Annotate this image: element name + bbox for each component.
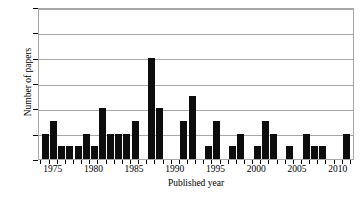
x-tick-label: 2000: [236, 164, 276, 174]
bar: [229, 146, 236, 159]
bar: [343, 134, 350, 159]
bar: [83, 134, 90, 159]
x-axis-title: Published year: [38, 178, 354, 188]
x-tick-label: 1975: [33, 164, 73, 174]
x-tick-label: 1995: [196, 164, 236, 174]
bar: [205, 146, 212, 159]
bar: [132, 121, 139, 159]
plot-area: [38, 8, 354, 160]
bar-chart-figure: Number of papers 024681012 1975198019851…: [0, 0, 363, 199]
bar: [319, 146, 326, 159]
bar: [270, 134, 277, 159]
bar: [180, 121, 187, 159]
bar: [99, 108, 106, 159]
bar: [66, 146, 73, 159]
x-tick-label: 1980: [73, 164, 113, 174]
bar: [262, 121, 269, 159]
bar: [107, 134, 114, 159]
bar: [115, 134, 122, 159]
bar: [237, 134, 244, 159]
bar: [286, 146, 293, 159]
y-axis-title: Number of papers: [23, 17, 33, 147]
bar: [91, 146, 98, 159]
x-tick-label: 2010: [318, 164, 358, 174]
bar: [42, 134, 49, 159]
bar: [58, 146, 65, 159]
bar-series: [39, 9, 353, 159]
bar: [303, 134, 310, 159]
bar: [123, 134, 130, 159]
bar: [148, 58, 155, 159]
bar: [156, 108, 163, 159]
y-tick-mark: [33, 160, 38, 161]
x-tick-label: 1990: [155, 164, 195, 174]
x-tick-label: 2005: [277, 164, 317, 174]
bar: [189, 96, 196, 159]
bar: [75, 146, 82, 159]
bar: [311, 146, 318, 159]
bar: [50, 121, 57, 159]
bar: [254, 146, 261, 159]
bar: [213, 121, 220, 159]
x-tick-label: 1985: [114, 164, 154, 174]
